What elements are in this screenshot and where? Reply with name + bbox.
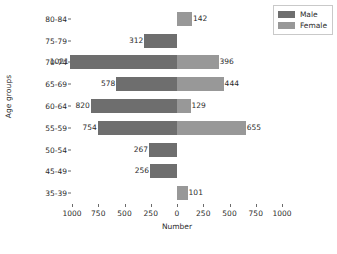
bar-value-male: 267 — [134, 146, 148, 154]
x-tick-mark — [125, 204, 126, 207]
bar-value-female: 101 — [189, 189, 203, 197]
x-tick-mark — [177, 204, 178, 207]
y-tick-label: 65-69 — [45, 80, 67, 89]
population-pyramid-chart: Age groups 80-8414275-7931270-7410213966… — [0, 0, 337, 254]
y-tick-mark — [68, 40, 71, 41]
y-tick-label: 35-39 — [45, 189, 67, 198]
bar-value-male: 1021 — [50, 59, 69, 67]
chart-row: 60-64820129 — [72, 95, 282, 117]
bar-male — [150, 164, 177, 178]
y-tick-label: 50-54 — [45, 145, 67, 154]
legend-label: Male — [300, 10, 318, 19]
bar-value-male: 754 — [83, 124, 97, 132]
chart-row: 45-49256 — [72, 160, 282, 182]
legend-item-male[interactable]: Male — [278, 9, 327, 20]
x-tick-mark — [230, 204, 231, 207]
y-tick-mark — [68, 18, 71, 19]
chart-row: 55-59754655 — [72, 117, 282, 139]
bar-male — [91, 99, 177, 113]
y-tick-label: 60-64 — [45, 101, 67, 110]
x-tick-mark — [203, 204, 204, 207]
y-tick-label: 45-49 — [45, 167, 67, 176]
x-tick-label: 1000 — [272, 209, 291, 218]
legend-item-female[interactable]: Female — [278, 20, 327, 31]
x-tick-mark — [151, 204, 152, 207]
bar-female — [177, 186, 188, 200]
bar-value-female: 142 — [193, 15, 207, 23]
legend-swatch-icon — [278, 22, 295, 29]
legend-label: Female — [300, 21, 327, 30]
bar-value-male: 256 — [135, 168, 149, 176]
x-tick-label: 1000 — [62, 209, 81, 218]
x-tick-label: 250 — [196, 209, 210, 218]
chart-row: 35-39101 — [72, 182, 282, 204]
bar-value-male: 312 — [129, 37, 143, 45]
x-tick-label: 750 — [91, 209, 105, 218]
x-tick-label: 0 — [175, 209, 180, 218]
y-tick-mark — [68, 193, 71, 194]
y-tick-mark — [68, 84, 71, 85]
plot-area: 80-8414275-7931270-74102139665-695784446… — [72, 8, 282, 204]
y-tick-label: 80-84 — [45, 14, 67, 23]
y-tick-mark — [68, 127, 71, 128]
bar-male — [149, 143, 177, 157]
y-tick-mark — [68, 105, 71, 106]
bar-value-female: 396 — [220, 59, 234, 67]
x-tick-label: 500 — [222, 209, 236, 218]
x-tick-mark — [98, 204, 99, 207]
y-tick-label: 55-59 — [45, 123, 67, 132]
bar-male — [70, 55, 177, 69]
bar-female — [177, 12, 192, 26]
chart-row: 50-54267 — [72, 139, 282, 161]
y-tick-mark — [68, 149, 71, 150]
bar-value-male: 578 — [101, 80, 115, 88]
bar-value-female: 655 — [247, 124, 261, 132]
chart-row: 70-741021396 — [72, 52, 282, 74]
bar-value-female: 444 — [225, 80, 239, 88]
bar-male — [144, 34, 177, 48]
bar-value-female: 129 — [192, 102, 206, 110]
y-tick-mark — [68, 171, 71, 172]
bar-female — [177, 121, 246, 135]
legend-swatch-icon — [278, 11, 295, 18]
x-tick-label: 750 — [249, 209, 263, 218]
chart-legend: MaleFemale — [273, 5, 333, 35]
x-tick-mark — [256, 204, 257, 207]
bar-female — [177, 99, 191, 113]
y-axis-label: Age groups — [4, 62, 13, 132]
chart-row: 80-84142 — [72, 8, 282, 30]
x-axis-label: Number — [72, 222, 282, 231]
bar-male — [98, 121, 177, 135]
x-tick-label: 250 — [144, 209, 158, 218]
x-tick-label: 500 — [117, 209, 131, 218]
chart-row: 65-69578444 — [72, 73, 282, 95]
x-tick-mark — [72, 204, 73, 207]
x-tick-mark — [282, 204, 283, 207]
bar-female — [177, 77, 224, 91]
chart-row: 75-79312 — [72, 30, 282, 52]
bar-female — [177, 55, 219, 69]
bar-value-male: 820 — [76, 102, 90, 110]
bar-male — [116, 77, 177, 91]
y-tick-label: 75-79 — [45, 36, 67, 45]
